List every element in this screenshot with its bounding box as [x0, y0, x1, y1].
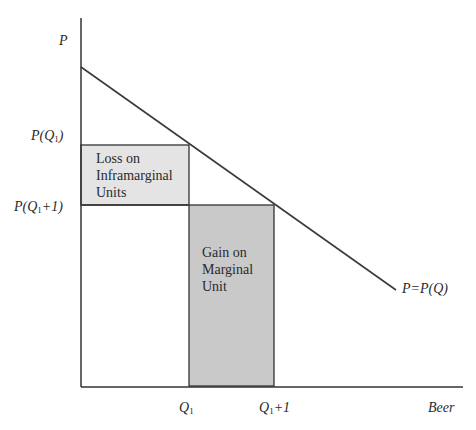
gain-line-3: Unit	[202, 278, 253, 295]
gain-region	[189, 205, 274, 386]
loss-line-3: Units	[96, 184, 173, 201]
loss-line-1: Loss on	[96, 150, 173, 167]
diagram-canvas	[0, 0, 476, 430]
x-axis-label: Beer	[428, 400, 454, 416]
loss-region-label: Loss on Inframarginal Units	[96, 150, 173, 201]
y-tick-p-q1-plus-1: P(Q1+1)	[14, 199, 63, 215]
gain-line-1: Gain on	[202, 244, 253, 261]
loss-line-2: Inframarginal	[96, 167, 173, 184]
x-tick-q1: Q1	[179, 400, 194, 416]
x-tick-q1-plus-1: Q1+1	[259, 400, 290, 416]
gain-line-2: Marginal	[202, 261, 253, 278]
y-tick-p-q1: P(Q1)	[31, 128, 64, 144]
gain-region-label: Gain on Marginal Unit	[202, 244, 253, 295]
curve-label: P=P(Q)	[402, 281, 448, 297]
y-axis-label: P	[59, 33, 68, 49]
